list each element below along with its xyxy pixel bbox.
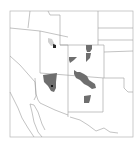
region-map [0, 0, 138, 145]
highlighted-counties [43, 38, 96, 103]
gulf-coast [30, 104, 45, 130]
coastline-ca [10, 92, 34, 137]
county-colorado-north [86, 45, 92, 52]
map-svg [0, 0, 138, 145]
county-colorado-west [69, 57, 77, 63]
county-colorado-central [86, 53, 91, 62]
state-borders [10, 11, 133, 137]
border-ok-tx [104, 78, 133, 92]
county-new-mexico-south [84, 95, 91, 103]
county-new-mexico-north [74, 70, 96, 89]
border-ne-ks [104, 51, 133, 52]
border-az-mexico [40, 103, 68, 115]
border-ca-nv [10, 56, 36, 100]
border-ca-az [35, 78, 40, 103]
county-arizona-central [43, 73, 57, 92]
marker-arizona [51, 85, 53, 87]
rio-grande [70, 117, 118, 133]
county-utah-north [53, 44, 56, 48]
border-or-id [28, 11, 30, 28]
border-nv-id [10, 28, 68, 37]
